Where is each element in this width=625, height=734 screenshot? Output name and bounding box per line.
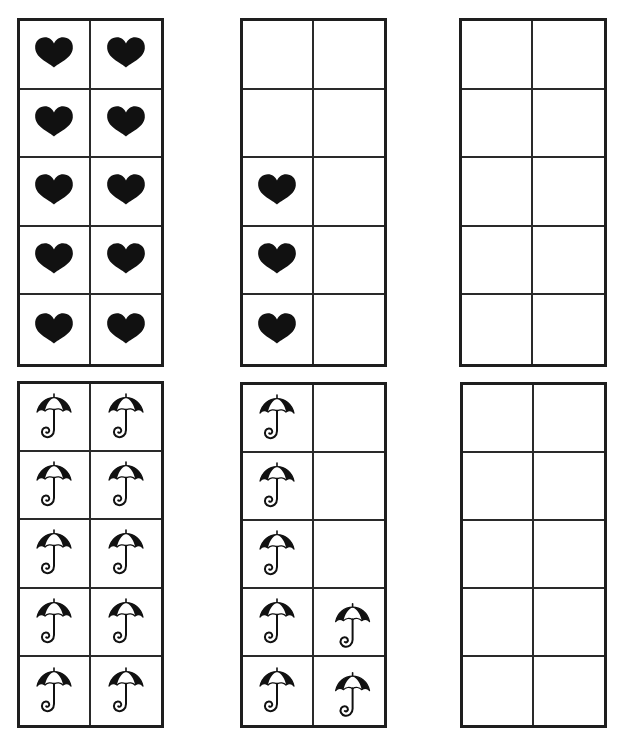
umbrella-icon	[259, 598, 295, 644]
frame-cell	[533, 295, 604, 364]
frame-cell	[314, 453, 385, 521]
frame-cell	[91, 21, 162, 90]
frame-cell	[20, 295, 91, 364]
frame-cell	[463, 589, 534, 657]
frame-cell	[463, 657, 534, 725]
frame-cell	[314, 227, 385, 296]
frame-cell	[91, 158, 162, 227]
frame-cell	[20, 589, 91, 657]
ten-frame-umbrellas-empty	[460, 382, 607, 728]
ten-frame-hearts-full	[17, 18, 164, 367]
umbrella-icon	[108, 461, 144, 507]
heart-icon	[106, 174, 146, 206]
frame-cell	[243, 227, 314, 296]
frame-cell	[533, 90, 604, 159]
frame-cell	[314, 589, 385, 657]
frame-cell	[91, 90, 162, 159]
frame-cell	[534, 589, 605, 657]
frame-cell	[314, 158, 385, 227]
ten-frame-umbrellas-partial	[240, 382, 387, 728]
frame-cell	[314, 521, 385, 589]
umbrella-icon	[259, 667, 295, 713]
heart-icon	[257, 174, 297, 206]
heart-icon	[34, 105, 74, 137]
ten-frame-umbrellas-full	[17, 381, 164, 728]
frame-cell	[20, 384, 91, 452]
heart-icon	[106, 242, 146, 274]
frame-cell	[91, 295, 162, 364]
frame-cell	[462, 227, 533, 296]
heart-icon	[257, 242, 297, 274]
frame-cell	[314, 295, 385, 364]
frame-cell	[91, 452, 162, 520]
umbrella-icon	[259, 394, 295, 440]
umbrella-icon	[259, 530, 295, 576]
frame-cell	[533, 158, 604, 227]
frame-cell	[20, 227, 91, 296]
frame-cell	[20, 158, 91, 227]
heart-icon	[34, 312, 74, 344]
frame-cell	[243, 589, 314, 657]
frame-cell	[243, 21, 314, 90]
frame-cell	[462, 158, 533, 227]
frame-cell	[243, 158, 314, 227]
umbrella-icon	[334, 603, 370, 649]
frame-cell	[462, 21, 533, 90]
frame-cell	[534, 521, 605, 589]
heart-icon	[106, 105, 146, 137]
umbrella-icon	[108, 393, 144, 439]
frame-cell	[20, 520, 91, 588]
frame-cell	[243, 453, 314, 521]
heart-icon	[106, 37, 146, 69]
frame-cell	[314, 657, 385, 725]
frame-cell	[314, 21, 385, 90]
frame-cell	[20, 21, 91, 90]
frame-cell	[20, 657, 91, 725]
frame-cell	[463, 385, 534, 453]
umbrella-icon	[259, 462, 295, 508]
ten-frame-hearts-empty	[459, 18, 607, 367]
heart-icon	[34, 242, 74, 274]
frame-cell	[314, 90, 385, 159]
frame-cell	[462, 90, 533, 159]
umbrella-icon	[334, 672, 370, 718]
umbrella-icon	[108, 667, 144, 713]
umbrella-icon	[108, 598, 144, 644]
frame-cell	[314, 385, 385, 453]
frame-cell	[20, 452, 91, 520]
frame-cell	[243, 295, 314, 364]
frame-cell	[463, 521, 534, 589]
frame-cell	[533, 227, 604, 296]
frame-cell	[91, 227, 162, 296]
frame-cell	[534, 657, 605, 725]
frame-cell	[463, 453, 534, 521]
frame-cell	[533, 21, 604, 90]
umbrella-icon	[36, 667, 72, 713]
frame-cell	[243, 90, 314, 159]
frame-cell	[91, 589, 162, 657]
frame-cell	[91, 520, 162, 588]
frame-cell	[243, 657, 314, 725]
heart-icon	[257, 312, 297, 344]
umbrella-icon	[36, 530, 72, 576]
frame-cell	[91, 384, 162, 452]
frame-cell	[20, 90, 91, 159]
frame-cell	[243, 385, 314, 453]
umbrella-icon	[36, 461, 72, 507]
heart-icon	[34, 174, 74, 206]
ten-frame-hearts-partial	[240, 18, 387, 367]
umbrella-icon	[36, 598, 72, 644]
umbrella-icon	[108, 530, 144, 576]
frame-cell	[462, 295, 533, 364]
umbrella-icon	[36, 393, 72, 439]
frame-cell	[534, 453, 605, 521]
frame-cell	[243, 521, 314, 589]
frame-cell	[91, 657, 162, 725]
heart-icon	[106, 312, 146, 344]
heart-icon	[34, 37, 74, 69]
frame-cell	[534, 385, 605, 453]
